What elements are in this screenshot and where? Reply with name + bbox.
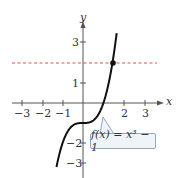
x-axis-arrow-icon (157, 101, 164, 106)
x-tick-label: −1 (55, 108, 71, 119)
y-axis-label: y (80, 12, 86, 23)
x-tick-label: −3 (14, 108, 30, 119)
y-tick-label: −2 (66, 138, 82, 149)
x-tick-label: 2 (121, 108, 128, 119)
function-label-callout: f(x) = x³ − 1 (90, 133, 156, 149)
y-tick-label: −3 (66, 158, 82, 169)
x-tick-label: −2 (35, 108, 51, 119)
intersection-point (110, 60, 116, 66)
x-axis-label: x (166, 96, 172, 107)
y-tick-label: 3 (72, 37, 79, 48)
y-tick-label: 1 (72, 78, 79, 89)
x-tick-label: 3 (142, 108, 149, 119)
